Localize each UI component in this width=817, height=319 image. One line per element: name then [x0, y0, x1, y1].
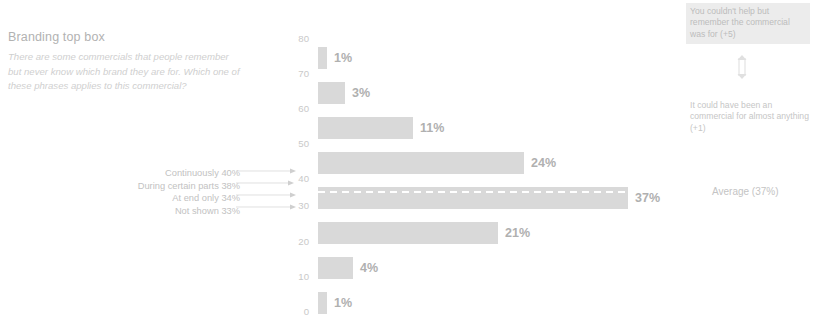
bar-value-label: 4%: [360, 261, 378, 275]
bar: [318, 222, 498, 244]
bar-row: 24%: [318, 152, 556, 174]
bar-value-label: 21%: [505, 226, 530, 240]
y-tick-60: 60: [283, 103, 309, 114]
y-tick-50: 50: [283, 138, 309, 149]
y-tick-10: 10: [283, 271, 309, 282]
bar: [318, 82, 345, 104]
bar: [318, 257, 353, 279]
bar: [318, 187, 628, 209]
bar: [318, 152, 524, 174]
y-tick-40: 40: [283, 173, 309, 184]
legend-item-continuously: Continuously 40%: [96, 167, 240, 180]
bar-row: 1%: [318, 47, 352, 69]
bar-chart: 80 70 60 50 40 30 20 10 0 1% 3% 11% 24% …: [283, 30, 703, 310]
bar-value-label: 1%: [334, 51, 352, 65]
bar-row: 4%: [318, 257, 378, 279]
y-tick-70: 70: [283, 68, 309, 79]
bar-value-label: 3%: [352, 86, 370, 100]
bar: [318, 47, 327, 69]
average-label: Average (37%): [712, 186, 779, 197]
bar-row-average: 37%: [318, 187, 660, 209]
page-title: Branding top box: [8, 30, 258, 44]
bars-layer: 1% 3% 11% 24% 37% 21% 4% 1%: [318, 30, 703, 310]
up-down-arrow-icon: [729, 54, 755, 80]
legend-item-not-shown: Not shown 33%: [96, 205, 240, 218]
y-tick-80: 80: [283, 33, 309, 44]
y-axis: 80 70 60 50 40 30 20 10 0: [283, 30, 309, 290]
bar-row: 3%: [318, 82, 370, 104]
bar-row: 11%: [318, 117, 444, 139]
chart-subtitle: There are some commercials that people r…: [8, 50, 240, 94]
bar-value-label: 37%: [635, 191, 660, 205]
chart-header: Branding top box There are some commerci…: [8, 30, 258, 94]
y-tick-30: 30: [283, 200, 309, 211]
bar-value-label: 24%: [531, 156, 556, 170]
annotation-bottom-note: It could have been an commercial for alm…: [690, 100, 816, 134]
bar-value-label: 11%: [420, 121, 444, 135]
bar: [318, 292, 327, 314]
y-tick-20: 20: [283, 236, 309, 247]
bar-value-label: 1%: [334, 296, 352, 310]
bar-row: 21%: [318, 222, 530, 244]
annotation-top-box: You couldn't help but remember the comme…: [686, 3, 810, 44]
y-tick-0: 0: [283, 306, 309, 317]
bar-row: 1%: [318, 292, 352, 314]
category-legend: Continuously 40% During certain parts 38…: [96, 167, 240, 217]
bar: [318, 117, 413, 139]
legend-item-during-certain-parts: During certain parts 38%: [96, 180, 240, 193]
legend-item-at-end-only: At end only 34%: [96, 192, 240, 205]
